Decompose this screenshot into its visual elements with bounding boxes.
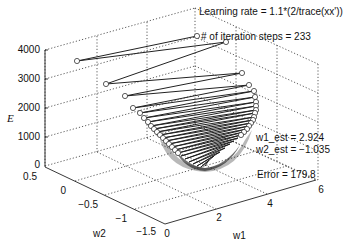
svg-text:4: 4 [267, 198, 273, 209]
svg-text:−1: −1 [116, 213, 128, 224]
z-axis-label: E [6, 112, 14, 124]
error-surface-3d-chart: 4000 3000 2000 1000 0 E 0.5 0 −0.5 −1 −1… [0, 0, 344, 245]
annotations: Learning rate = 1.1*(2/trace(xx')) # of … [199, 6, 343, 180]
svg-text:4000: 4000 [18, 44, 41, 55]
descent-trajectory [74, 33, 258, 172]
svg-text:2000: 2000 [18, 102, 41, 113]
w2-tick-labels: 0.5 0 −0.5 −1 −1.5 [23, 171, 156, 237]
error-annotation: Error = 179.8 [257, 169, 316, 180]
learning-rate-annotation: Learning rate = 1.1*(2/trace(xx')) [199, 6, 343, 17]
iteration-steps-annotation: # of iteration steps = 233 [201, 31, 311, 42]
w2-est-annotation: w2_est = −1.035 [255, 144, 330, 155]
svg-text:−1.5: −1.5 [136, 226, 156, 237]
w1-axis-line [165, 180, 316, 224]
z-tick-labels: 4000 3000 2000 1000 0 [18, 44, 41, 170]
svg-text:0.5: 0.5 [23, 171, 37, 182]
w1-axis-label: w1 [232, 230, 246, 241]
svg-text:0: 0 [60, 185, 66, 196]
svg-text:0: 0 [34, 159, 40, 170]
svg-text:1000: 1000 [18, 131, 41, 142]
w1-est-annotation: w1_est = 2.924 [255, 132, 325, 143]
svg-text:3000: 3000 [18, 73, 41, 84]
svg-text:6: 6 [318, 184, 324, 195]
w2-axis-label: w2 [92, 228, 106, 239]
svg-text:2: 2 [216, 212, 222, 223]
svg-text:0: 0 [164, 228, 170, 239]
svg-text:−0.5: −0.5 [78, 199, 98, 210]
